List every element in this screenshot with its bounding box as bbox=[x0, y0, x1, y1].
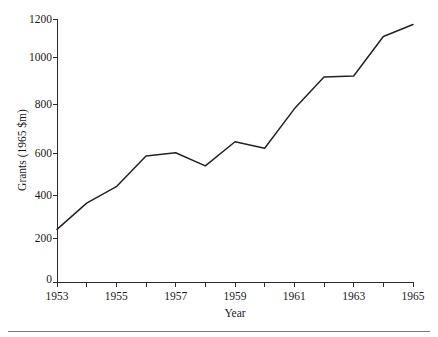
y-tick-label: 400 bbox=[35, 189, 53, 201]
y-tick-labels: 0 200 400 600 800 1000 1200 bbox=[29, 13, 52, 285]
y-axis-title: Grants (1965 $m) bbox=[16, 109, 29, 191]
y-tick-label: 1200 bbox=[29, 13, 52, 25]
x-axis-title: Year bbox=[224, 307, 245, 319]
x-tick-label: 1963 bbox=[342, 290, 365, 302]
x-tick-labels: 1953 1955 1957 1959 1961 1963 1965 bbox=[46, 290, 425, 302]
y-tick-label: 800 bbox=[35, 98, 53, 110]
data-series-line bbox=[57, 24, 413, 229]
y-axis-ticks bbox=[53, 19, 57, 282]
x-axis-ticks bbox=[57, 282, 413, 287]
figure-container: Grants (1965 $m) 0 200 400 600 800 1000 … bbox=[0, 0, 438, 337]
x-tick-label: 1965 bbox=[402, 290, 425, 302]
x-tick-label: 1961 bbox=[283, 290, 306, 302]
y-tick-label: 600 bbox=[35, 147, 53, 159]
x-tick-label: 1957 bbox=[164, 290, 187, 302]
line-chart: Grants (1965 $m) 0 200 400 600 800 1000 … bbox=[0, 0, 438, 337]
x-tick-label: 1959 bbox=[224, 290, 247, 302]
x-tick-label: 1953 bbox=[46, 290, 69, 302]
x-tick-label: 1955 bbox=[105, 290, 128, 302]
y-tick-label: 200 bbox=[35, 232, 53, 244]
y-tick-label: 1000 bbox=[29, 51, 52, 63]
y-tick-label: 0 bbox=[46, 273, 52, 285]
